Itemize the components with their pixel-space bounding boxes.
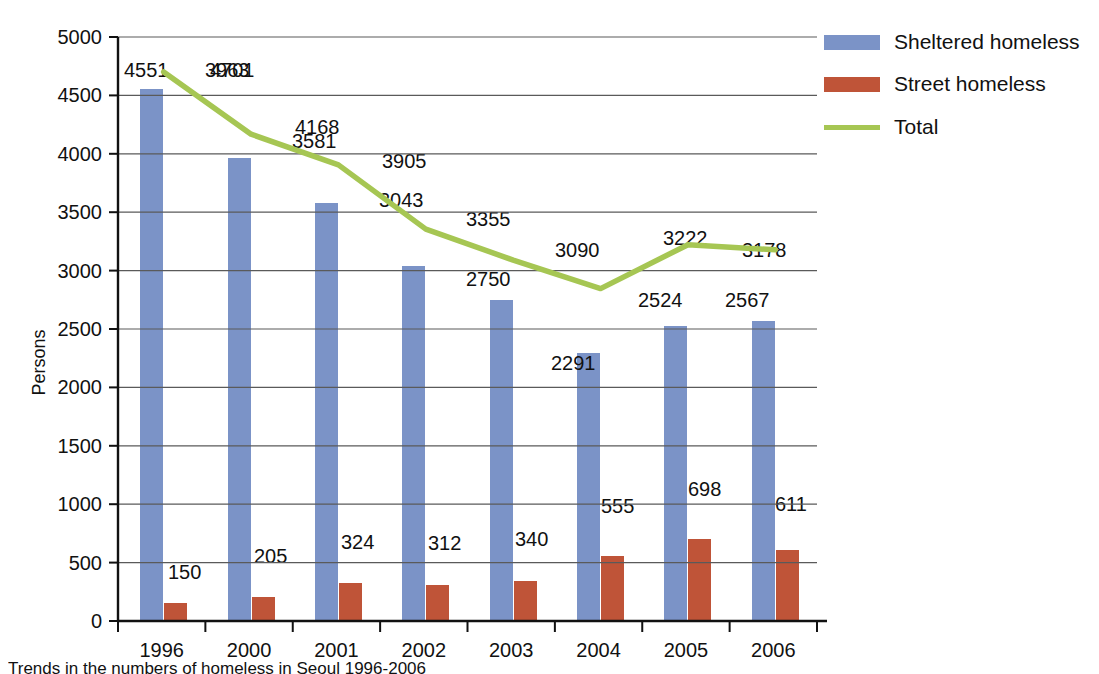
legend-swatch-sheltered-icon [824,35,880,50]
y-axis-tick-label: 1000 [40,494,102,514]
bar-sheltered-homeless [315,203,338,621]
legend-item-sheltered-homeless[interactable]: Sheltered homeless [824,30,1080,54]
x-axis-tick-label: 2001 [291,640,381,660]
bar-sheltered-homeless [402,266,425,621]
data-label-street: 205 [254,546,287,566]
legend-swatch-total-line-icon [824,125,880,130]
bar-sheltered-homeless [228,158,251,621]
bar-sheltered-homeless [664,326,687,621]
bar-sheltered-homeless [140,89,163,621]
data-label-street: 340 [515,529,548,549]
data-label-sheltered: 2291 [551,353,596,373]
chart-container: Persons 05001000150020002500300035004000… [0,0,1099,674]
y-axis-tick-label: 3500 [40,202,102,222]
y-axis-tick-label: 4000 [40,144,102,164]
bar-street-homeless [514,581,537,621]
x-axis-tick-label: 1996 [117,640,207,660]
y-axis-tick-label: 2500 [40,319,102,339]
x-axis-tick-label: 2002 [379,640,469,660]
legend-item-total[interactable]: Total [824,115,938,139]
data-label-total: 3355 [466,209,511,229]
y-axis-tick-label: 2000 [40,377,102,397]
data-label-street: 312 [428,533,461,553]
bar-street-homeless [776,550,799,621]
y-axis-tick-label: 4500 [40,85,102,105]
legend-label-sheltered: Sheltered homeless [894,30,1080,54]
legend-item-street-homeless[interactable]: Street homeless [824,72,1046,96]
legend-swatch-street-icon [824,77,880,92]
bar-street-homeless [252,597,275,621]
data-label-sheltered: 2524 [638,290,683,310]
x-axis-tick-label: 2003 [466,640,556,660]
legend-label-total: Total [894,115,938,139]
data-label-street: 698 [688,479,721,499]
bar-sheltered-homeless [577,353,600,621]
data-label-sheltered: 3043 [379,190,424,210]
bar-street-homeless [426,585,449,621]
data-label-sheltered: 4551 [124,60,169,80]
bar-street-homeless [688,539,711,621]
legend-label-street: Street homeless [894,72,1046,96]
x-axis-tick-label: 2004 [554,640,644,660]
x-axis-tick-label: 2000 [204,640,294,660]
chart-axes-and-line [0,0,1099,674]
data-label-total: 3905 [382,151,427,171]
data-label-total: 3090 [555,240,600,260]
data-label-street: 611 [775,494,807,514]
y-axis-tick-label: 500 [40,553,102,573]
y-axis-tick-label: 3000 [40,261,102,281]
y-axis-tick-label: 1500 [40,436,102,456]
x-axis-tick-label: 2006 [728,640,818,660]
data-label-street: 150 [168,562,201,582]
y-axis-tick-label: 0 [40,611,102,631]
data-label-street: 555 [601,496,634,516]
bar-sheltered-homeless [490,300,513,621]
figure-caption: Trends in the numbers of homeless in Seo… [8,659,426,674]
data-label-total: 3178 [742,240,787,260]
y-axis-tick-label: 5000 [40,27,102,47]
data-label-street: 324 [341,532,374,552]
data-label-sheltered: 2750 [466,269,511,289]
bar-street-homeless [339,583,362,621]
data-label-sheltered: 2567 [725,290,770,310]
data-label-total: 4168 [295,117,340,137]
x-axis-tick-label: 2005 [641,640,731,660]
bar-street-homeless [164,603,187,621]
data-label-total: 4701 [210,60,255,80]
bar-sheltered-homeless [752,321,775,621]
data-label-total: 3222 [663,228,708,248]
bar-street-homeless [601,556,624,621]
